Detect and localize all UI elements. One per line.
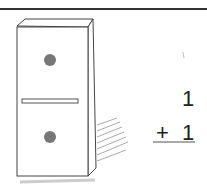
plus-sign: +: [156, 122, 169, 144]
top-pip: [44, 54, 56, 66]
domino-illustration: [0, 0, 207, 190]
bottom-pip: [44, 131, 56, 143]
addend-2: 1: [182, 122, 194, 144]
addend-1: 1: [182, 88, 194, 110]
